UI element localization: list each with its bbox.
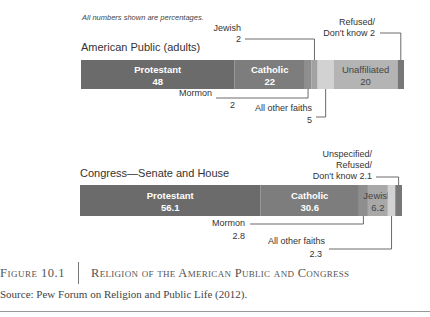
figure-caption: Figure 10.1 Religion of the American Pub… — [0, 262, 430, 300]
bar-segment-mormon — [305, 60, 311, 89]
segment-value-protestant: 48 — [152, 76, 163, 87]
bar-segment-all-other-faiths — [318, 60, 334, 89]
leader-line-unspecified-refused-don-t-know — [376, 177, 399, 185]
segment-value-catholic: 22 — [264, 76, 275, 87]
segment-label-unaffiliated: Unaffiliated — [342, 64, 389, 75]
bar-segment-all-other-faiths — [388, 185, 395, 216]
figure-title: Religion of the American Public and Cong… — [91, 266, 349, 281]
caption-divider — [78, 262, 79, 284]
figure-number: Figure 10.1 — [0, 266, 78, 281]
segment-label-protestant: Protestant — [147, 190, 195, 201]
segment-value-catholic: 30.6 — [300, 202, 319, 213]
annotation-all-other-faiths-line-0: All other faiths — [268, 236, 326, 246]
leader-line-mormon — [216, 89, 308, 98]
segment-value-jewish: 6.2 — [371, 202, 384, 213]
annotation-all-other-faiths-line-1: 2.3 — [309, 249, 322, 259]
segment-value-protestant: 56.1 — [161, 202, 180, 213]
bar-segment-unspecified-refused-don-t-know — [395, 185, 402, 216]
leader-line-mormon — [250, 216, 363, 224]
annotation-jewish-line-1: 2 — [236, 34, 241, 44]
annotation-unspecified-refused-don-t-know-line-0: Unspecified/ — [322, 149, 372, 159]
annotation-refused-don-t-know-line-0: Refused/ — [339, 17, 376, 27]
leader-line-all-other-faiths — [329, 216, 392, 249]
leader-line-all-other-faiths — [316, 89, 326, 117]
bar-segment-refused-don-t-know — [398, 60, 404, 89]
segment-value-unaffiliated: 20 — [360, 76, 371, 87]
annotation-mormon-line-0: Mormon — [212, 218, 245, 228]
annotation-mormon-line-1: 2 — [230, 100, 235, 110]
annotation-all-other-faiths-line-1: 5 — [307, 115, 312, 125]
annotation-unspecified-refused-don-t-know-line-1: Refused/ — [336, 160, 373, 170]
annotation-mormon-line-0: Mormon — [179, 88, 212, 98]
chart-title-american-public: American Public (adults) — [81, 41, 200, 53]
annotation-all-other-faiths-line-0: All other faiths — [255, 103, 313, 113]
segment-label-catholic: Catholic — [291, 190, 328, 201]
annotation-mormon-line-1: 2.8 — [232, 231, 245, 241]
bar-american-public: Protestant48Catholic22Unaffiliated20 — [81, 60, 404, 89]
leader-line-refused-don-t-know — [380, 33, 401, 60]
bar-segment-jewish — [311, 60, 317, 89]
annotation-refused-don-t-know-line-1: Don't know 2 — [323, 28, 375, 38]
chart-area: All numbers shown are percentages. Ameri… — [0, 0, 430, 260]
bottom-rule — [0, 311, 430, 312]
bar-congress: Protestant56.1Catholic30.6Jewish6.2 — [80, 185, 402, 216]
chart-note: All numbers shown are percentages. — [81, 13, 204, 22]
segment-label-protestant: Protestant — [134, 64, 182, 75]
annotation-jewish-line-0: Jewish — [213, 23, 241, 33]
leader-line-jewish — [245, 39, 314, 60]
annotation-unspecified-refused-don-t-know-line-2: Don't know 2.1 — [313, 171, 372, 181]
figure-source: Source: Pew Forum on Religion and Public… — [0, 288, 430, 300]
segment-label-catholic: Catholic — [251, 64, 288, 75]
chart-title-congress: Congress—Senate and House — [80, 167, 229, 179]
